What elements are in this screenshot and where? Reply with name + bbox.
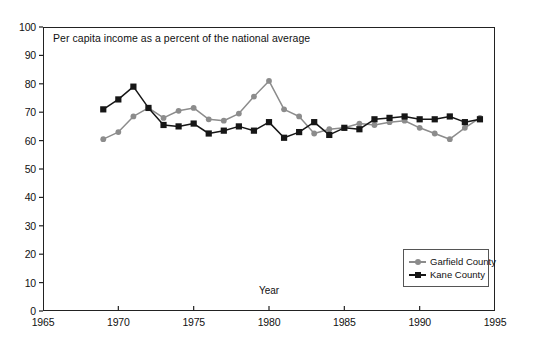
legend-label-kane-county: Kane County <box>430 269 485 280</box>
data-point-garfield-county-1986 <box>357 121 363 127</box>
series-line-garfield-county <box>103 81 480 139</box>
data-point-garfield-county-1978 <box>236 111 242 117</box>
data-point-kane-county-1989 <box>402 113 408 119</box>
data-point-kane-county-1971 <box>130 84 136 90</box>
data-point-kane-county-1990 <box>417 116 423 122</box>
legend-item-garfield-county[interactable]: Garfield County <box>409 255 482 268</box>
legend-marker-circle-icon <box>409 256 426 267</box>
data-point-garfield-county-1975 <box>191 105 197 111</box>
data-point-kane-county-1984 <box>326 132 332 138</box>
data-point-kane-county-1974 <box>176 123 182 129</box>
data-point-kane-county-1970 <box>115 96 121 102</box>
data-point-garfield-county-1992 <box>447 136 453 142</box>
data-point-garfield-county-1971 <box>131 114 137 120</box>
chart-container: Per capita income as a percent of the na… <box>0 0 538 347</box>
legend-item-kane-county[interactable]: Kane County <box>409 268 482 281</box>
data-point-garfield-county-1983 <box>311 131 317 137</box>
data-point-garfield-county-1973 <box>161 115 167 121</box>
data-point-garfield-county-1977 <box>221 118 227 124</box>
data-point-garfield-county-1982 <box>296 114 302 120</box>
data-point-kane-county-1980 <box>266 119 272 125</box>
data-point-kane-county-1977 <box>221 128 227 134</box>
data-point-kane-county-1986 <box>356 126 362 132</box>
data-point-kane-county-1969 <box>100 106 106 112</box>
data-point-garfield-county-1993 <box>462 125 468 131</box>
data-point-garfield-county-1980 <box>266 78 272 84</box>
data-point-kane-county-1981 <box>281 135 287 141</box>
data-point-kane-county-1979 <box>251 128 257 134</box>
data-point-kane-county-1973 <box>160 122 166 128</box>
data-point-garfield-county-1990 <box>417 125 423 131</box>
data-point-garfield-county-1991 <box>432 131 438 137</box>
data-point-kane-county-1993 <box>462 119 468 125</box>
data-point-garfield-county-1979 <box>251 94 257 100</box>
data-point-kane-county-1987 <box>371 116 377 122</box>
legend-marker-square-icon <box>409 269 426 280</box>
data-point-kane-county-1978 <box>236 123 242 129</box>
data-point-kane-county-1982 <box>296 129 302 135</box>
data-point-kane-county-1991 <box>432 116 438 122</box>
data-point-garfield-county-1984 <box>326 126 332 132</box>
data-point-kane-county-1988 <box>386 115 392 121</box>
data-point-kane-county-1994 <box>477 116 483 122</box>
legend-label-garfield-county: Garfield County <box>430 256 496 267</box>
data-point-garfield-county-1969 <box>100 136 106 142</box>
data-point-kane-county-1976 <box>206 130 212 136</box>
data-point-garfield-county-1987 <box>372 122 378 128</box>
data-point-garfield-county-1974 <box>176 108 182 114</box>
data-point-kane-county-1992 <box>447 113 453 119</box>
data-point-garfield-county-1976 <box>206 116 212 122</box>
chart-legend: Garfield County Kane County <box>403 249 489 287</box>
data-point-kane-county-1985 <box>341 125 347 131</box>
data-point-garfield-county-1981 <box>281 106 287 112</box>
data-point-kane-county-1983 <box>311 119 317 125</box>
data-point-kane-county-1972 <box>145 105 151 111</box>
data-point-kane-county-1975 <box>191 120 197 126</box>
data-point-garfield-county-1970 <box>115 129 121 135</box>
